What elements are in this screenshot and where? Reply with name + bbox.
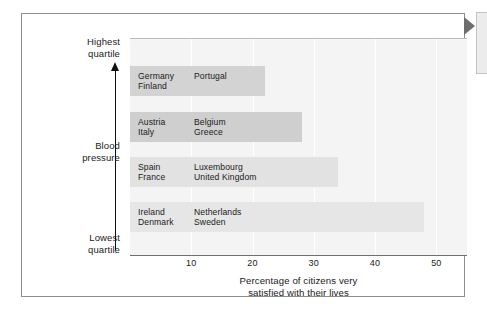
x-tick-label-50: 50 [431, 258, 441, 268]
x-axis-title-line-2: satisfied with their lives [130, 287, 467, 299]
figure-frame: Highest quartile Blood pressure Lowest q… [21, 13, 465, 297]
y-axis-direction-arrow-icon [110, 62, 121, 250]
arrow-shaft [115, 70, 116, 250]
y-axis-top-label-line-1: Highest [48, 36, 120, 48]
country-label: Austria [138, 117, 194, 127]
bar-country-labels: IrelandDenmarkNetherlandsSweden [138, 207, 241, 228]
bar-country-labels: GermanyFinlandPortugal [138, 71, 227, 92]
bar-country-labels: AustriaItalyBelgiumGreece [138, 117, 226, 138]
x-axis-tick-labels: 1020304050 [130, 258, 467, 272]
bar-2-countries-right: LuxembourgUnited Kingdom [194, 162, 257, 183]
bar-1: AustriaItalyBelgiumGreece [130, 112, 302, 142]
country-label: Ireland [138, 207, 194, 217]
bar-0: GermanyFinlandPortugal [130, 66, 265, 96]
x-tick-label-30: 30 [309, 258, 319, 268]
bar-0-countries-left: GermanyFinland [138, 71, 194, 92]
callout-pointer-icon [464, 17, 475, 35]
y-axis-top-label: Highest quartile [48, 36, 120, 59]
country-label: Finland [138, 81, 194, 91]
bar-country-labels: SpainFranceLuxembourgUnited Kingdom [138, 162, 257, 183]
country-label: United Kingdom [194, 172, 257, 182]
bar-3-countries-right: NetherlandsSweden [194, 207, 241, 228]
country-label: Greece [194, 127, 226, 137]
y-axis-top-label-line-2: quartile [48, 48, 120, 60]
country-label: Netherlands [194, 207, 241, 217]
plot-area: GermanyFinlandPortugalAustriaItalyBelgiu… [130, 38, 467, 255]
x-tick-label-40: 40 [370, 258, 380, 268]
country-label: Portugal [194, 71, 227, 81]
bar-3: IrelandDenmarkNetherlandsSweden [130, 202, 424, 232]
bar-2: SpainFranceLuxembourgUnited Kingdom [130, 157, 338, 187]
country-label: Luxembourg [194, 162, 257, 172]
bar-2-countries-left: SpainFrance [138, 162, 194, 183]
x-tick-label-20: 20 [247, 258, 257, 268]
country-label: Italy [138, 127, 194, 137]
country-label: France [138, 172, 194, 182]
country-label: Germany [138, 71, 194, 81]
country-label: Sweden [194, 217, 241, 227]
bar-0-countries-right: Portugal [194, 71, 227, 92]
country-label: Denmark [138, 217, 194, 227]
x-axis-line [130, 255, 467, 256]
x-axis-title: Percentage of citizens very satisfied wi… [130, 275, 467, 299]
bars-layer: GermanyFinlandPortugalAustriaItalyBelgiu… [130, 39, 467, 255]
x-axis-title-line-1: Percentage of citizens very [130, 275, 467, 287]
bar-1-countries-right: BelgiumGreece [194, 117, 226, 138]
bar-1-countries-left: AustriaItaly [138, 117, 194, 138]
callout-text [477, 13, 487, 19]
callout-box [476, 12, 487, 74]
country-label: Belgium [194, 117, 226, 127]
country-label: Spain [138, 162, 194, 172]
bar-3-countries-left: IrelandDenmark [138, 207, 194, 228]
x-tick-label-10: 10 [186, 258, 196, 268]
